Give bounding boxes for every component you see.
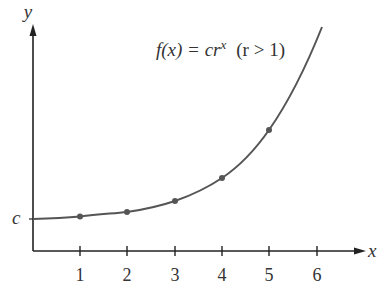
x-tick-label: 1 <box>76 265 85 285</box>
x-tick-labels: 1 2 3 4 5 6 <box>76 265 322 285</box>
x-tick-label: 4 <box>218 265 227 285</box>
point-x5 <box>266 127 272 133</box>
x-tick-label: 2 <box>123 265 132 285</box>
x-tick-label: 5 <box>265 265 274 285</box>
point-x1 <box>77 214 83 220</box>
point-x3 <box>172 198 178 204</box>
equation-label: f(x) = crx(r > 1) <box>156 37 285 61</box>
point-x2 <box>124 209 130 215</box>
x-axis-label: x <box>367 240 377 261</box>
curve-points <box>77 127 272 220</box>
equation-condition: (r > 1) <box>236 39 285 61</box>
exponential-graph: y x c 1 2 3 4 5 6 f(x) = crx(r > 1) <box>0 0 381 289</box>
y-intercept-label: c <box>12 207 21 228</box>
x-tick-label: 6 <box>313 265 322 285</box>
point-x4 <box>219 175 225 181</box>
x-tick-label: 3 <box>171 265 180 285</box>
y-axis-label: y <box>22 1 33 22</box>
y-axis-arrow-icon <box>30 24 37 36</box>
x-axis-arrow-icon <box>354 248 366 255</box>
equation-exponent: x <box>220 37 227 52</box>
equation-lhs: f(x) = cr <box>156 39 221 61</box>
